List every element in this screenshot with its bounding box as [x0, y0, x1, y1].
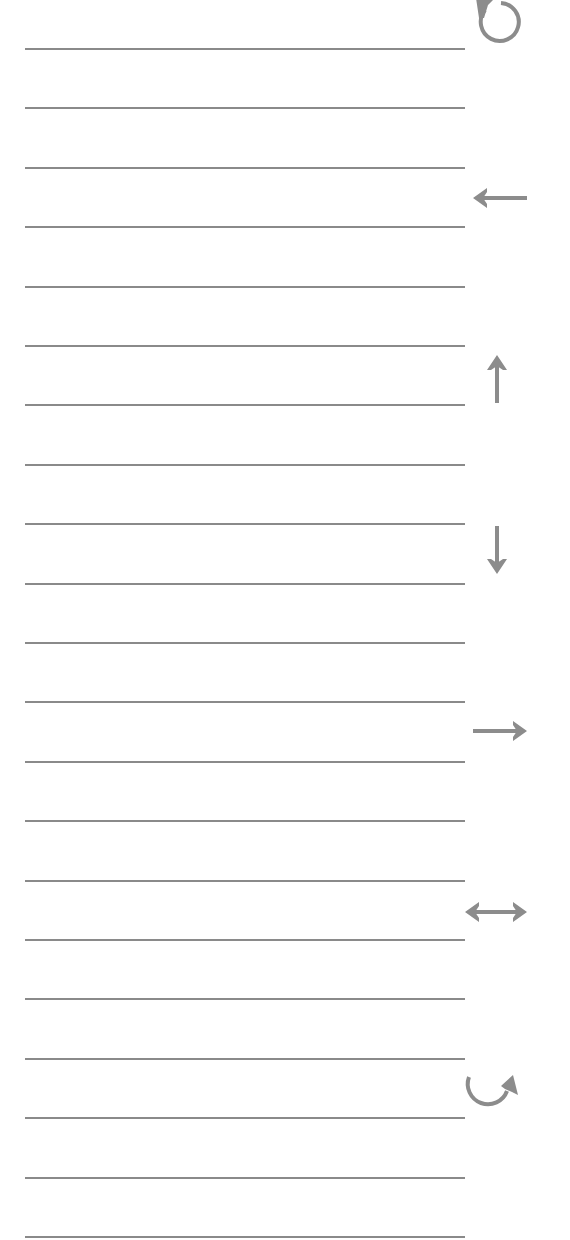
- arrow-down-icon: [462, 520, 532, 580]
- ruled-line: [25, 939, 465, 941]
- ruled-line: [25, 345, 465, 347]
- curved-arrow-clockwise-icon: [461, 1055, 531, 1115]
- ruled-line: [25, 1117, 465, 1119]
- ruled-line: [25, 820, 465, 822]
- ruled-line: [25, 107, 465, 109]
- ruled-line: [25, 1058, 465, 1060]
- arrow-right-icon: [465, 701, 535, 761]
- arrow-up-icon: [462, 353, 532, 413]
- ruled-line: [25, 48, 465, 50]
- ruled-line: [25, 1236, 465, 1238]
- arrow-left-right-icon: [461, 882, 531, 942]
- rotate-counterclockwise-icon: [455, 0, 525, 48]
- ruled-line: [25, 998, 465, 1000]
- ruled-line: [25, 404, 465, 406]
- ruled-line: [25, 761, 465, 763]
- ruled-line: [25, 523, 465, 525]
- ruled-line: [25, 642, 465, 644]
- ruled-line: [25, 286, 465, 288]
- ruled-line: [25, 880, 465, 882]
- ruled-line: [25, 1177, 465, 1179]
- ruled-line: [25, 167, 465, 169]
- arrow-left-icon: [465, 168, 535, 228]
- ruled-line: [25, 226, 465, 228]
- ruled-line: [25, 464, 465, 466]
- ruled-line: [25, 701, 465, 703]
- ruled-line: [25, 583, 465, 585]
